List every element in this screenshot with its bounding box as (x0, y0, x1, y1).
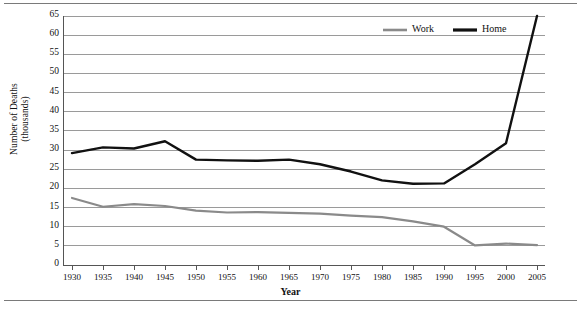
chart-plot-area: Number of Deaths (thousands) Year 051015… (0, 0, 581, 322)
y-tick-label-30: 30 (37, 143, 59, 153)
gridlines (63, 16, 545, 265)
y-tick-label-40: 40 (37, 105, 59, 115)
y-tick-label-45: 45 (37, 86, 59, 96)
y-tick-label-10: 10 (37, 220, 59, 230)
x-axis-label: Year (0, 286, 581, 297)
y-tick-label-50: 50 (37, 66, 59, 76)
y-tick-label-60: 60 (37, 28, 59, 38)
y-tick-label-0: 0 (37, 258, 59, 268)
y-tick-label-35: 35 (37, 124, 59, 134)
y-tick-label-20: 20 (37, 181, 59, 191)
y-tick-label-15: 15 (37, 201, 59, 211)
y-tick-label-25: 25 (37, 162, 59, 172)
y-tick-label-55: 55 (37, 47, 59, 57)
y-tick-label-5: 5 (37, 239, 59, 249)
x-tick-marks (72, 265, 537, 270)
legend-label-home: Home (482, 23, 506, 34)
y-tick-label-65: 65 (37, 9, 59, 19)
series-line-home (72, 16, 537, 184)
figure: Number of Deaths (thousands) Year 051015… (0, 0, 581, 322)
legend-label-work: Work (412, 23, 434, 34)
x-tick-label-2005: 2005 (517, 272, 557, 282)
series-line-work (72, 198, 537, 246)
